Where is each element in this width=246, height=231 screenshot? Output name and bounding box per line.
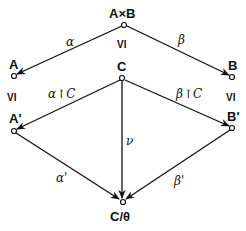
edge-label-beta: β xyxy=(178,34,185,46)
node-label-a: A xyxy=(9,58,18,71)
edge-label-nu: ν xyxy=(126,135,133,147)
node-label-b-prime: B' xyxy=(227,110,239,123)
node-label-b: B xyxy=(228,59,237,72)
edge-beta-prime xyxy=(126,130,230,199)
node-label-c-theta: C/θ xyxy=(110,210,130,223)
edge-label-beta-restr: β↾C xyxy=(176,88,202,100)
edge-label-beta-prime: β' xyxy=(174,175,184,187)
relation-left: VI xyxy=(7,93,16,103)
edge-label-alpha: α xyxy=(66,36,74,48)
relation-right: VI xyxy=(226,93,235,103)
edge-label-alpha-prime: α' xyxy=(56,172,67,184)
node-dot-b-prime xyxy=(230,126,235,131)
node-dot-a xyxy=(12,74,17,79)
edge-label-alpha-restr: α↾C xyxy=(48,88,75,100)
node-dot-a-prime xyxy=(12,129,17,134)
node-label-a-prime: A' xyxy=(9,112,21,125)
diagram-canvas xyxy=(0,0,246,231)
edge-alpha-prime xyxy=(16,133,119,199)
relation-center: VI xyxy=(117,40,126,50)
node-dot-axb xyxy=(122,23,127,28)
node-label-c: C xyxy=(117,60,126,73)
node-dot-c xyxy=(120,76,125,81)
node-label-axb: A×B xyxy=(109,7,135,20)
node-dot-b xyxy=(230,75,235,80)
edge-alpha xyxy=(17,26,122,74)
node-dot-c-theta xyxy=(121,200,126,205)
